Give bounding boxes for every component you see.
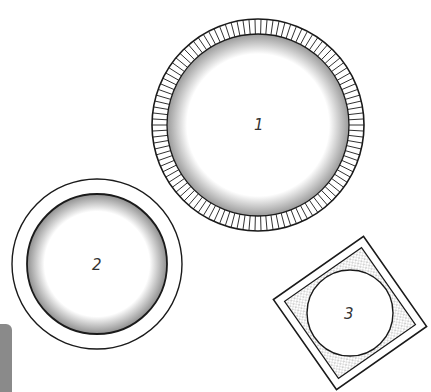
item-2-label: 2: [92, 256, 102, 274]
edge-scroll-thumb[interactable]: [0, 324, 12, 392]
item-1-label: 1: [254, 116, 264, 134]
item-1-hatched-circle: 1: [152, 19, 364, 231]
item-3-label: 3: [344, 305, 354, 323]
diagram-canvas: 1 2 3: [0, 0, 431, 392]
item-3-inner-circle: 3: [307, 270, 393, 356]
item-2-plain-circle: 2: [12, 179, 182, 349]
